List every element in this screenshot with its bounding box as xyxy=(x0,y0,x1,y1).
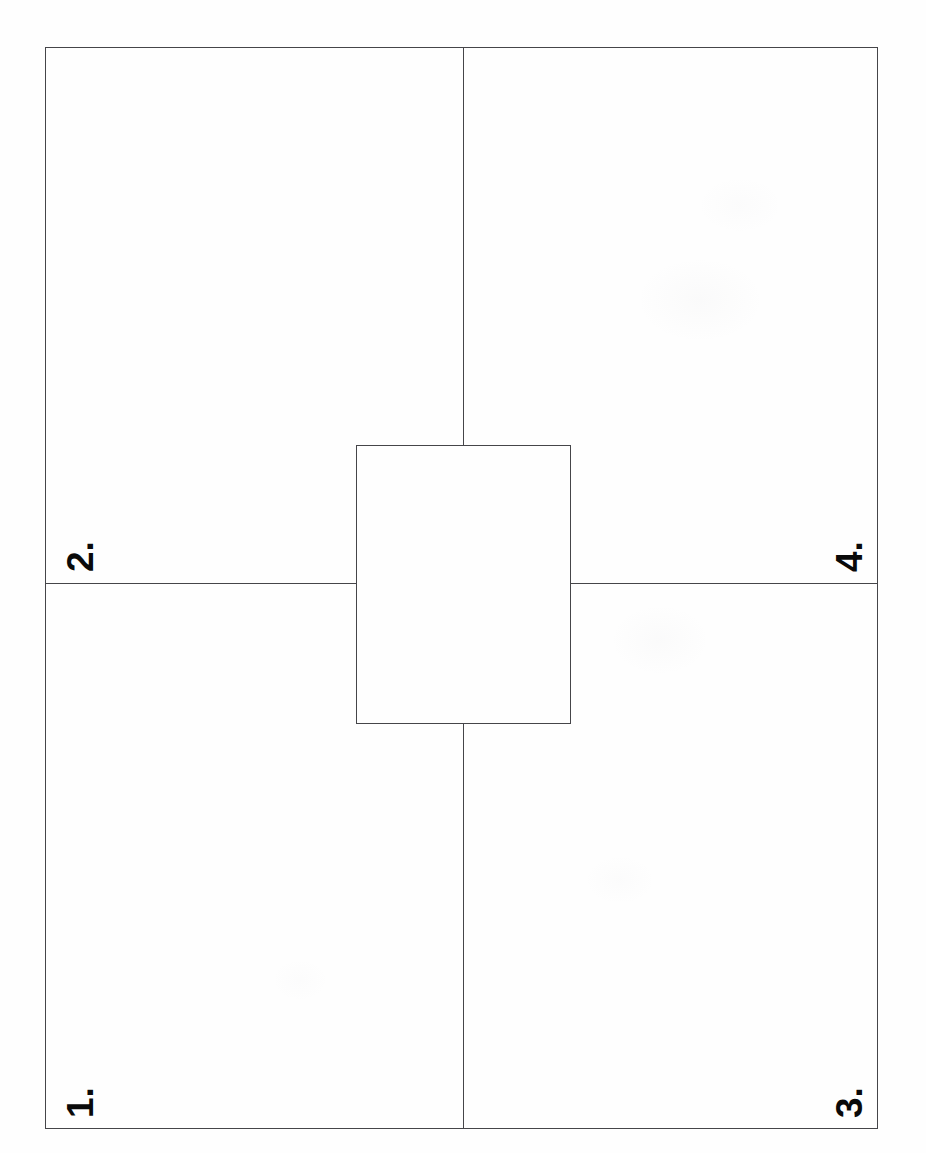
vertical-divider-upper-segment xyxy=(463,47,464,446)
quadrant-label-3: 3. xyxy=(831,1087,868,1118)
scanned-page: 1. 2. 3. 4. xyxy=(0,0,926,1153)
quadrant-label-2: 2. xyxy=(62,541,99,572)
horizontal-divider-right-segment xyxy=(570,583,878,584)
quadrant-label-4: 4. xyxy=(831,541,868,572)
centre-rectangle xyxy=(356,445,571,724)
quadrant-label-1: 1. xyxy=(62,1087,99,1118)
vertical-divider-lower-segment xyxy=(463,723,464,1129)
horizontal-divider-left-segment xyxy=(45,583,357,584)
